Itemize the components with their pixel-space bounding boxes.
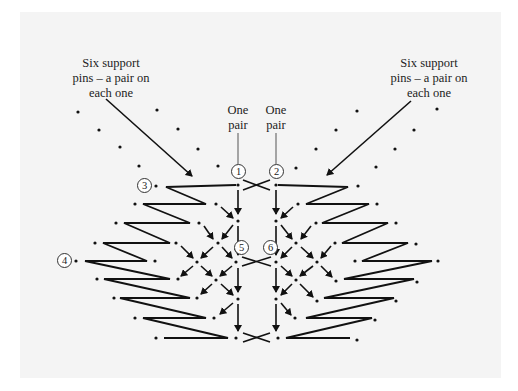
support-pins-label-left: Six support pins – a pair on each one <box>58 56 164 101</box>
pair-leader-lines <box>238 133 276 164</box>
label-line: pair <box>258 118 294 133</box>
one-pair-label-right: One pair <box>258 103 294 133</box>
marker-2: 2 <box>269 164 284 179</box>
label-line: One <box>258 103 294 118</box>
label-line: Six support <box>376 56 482 71</box>
label-line: pins – a pair on <box>58 71 164 86</box>
marker-6: 6 <box>263 240 278 255</box>
ground-pins <box>74 183 439 341</box>
label-line: each one <box>58 86 164 101</box>
one-pair-label-left: One pair <box>220 103 256 133</box>
support-pins-label-right: Six support pins – a pair on each one <box>376 56 482 101</box>
label-line: One <box>220 103 256 118</box>
label-line: each one <box>376 86 482 101</box>
crossings <box>242 180 271 342</box>
marker-4: 4 <box>57 253 72 268</box>
flow-arrows <box>181 190 332 331</box>
marker-5: 5 <box>234 240 249 255</box>
label-line: pair <box>220 118 256 133</box>
marker-1: 1 <box>231 164 246 179</box>
label-line: pins – a pair on <box>376 71 482 86</box>
left-zigzag <box>85 185 236 338</box>
label-line: Six support <box>58 56 164 71</box>
marker-3: 3 <box>137 178 152 193</box>
